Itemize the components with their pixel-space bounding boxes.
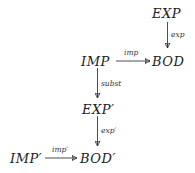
- node-exp: EXP: [152, 7, 181, 20]
- arrows-layer: [0, 0, 195, 173]
- node-bod-prime: BOD′: [80, 152, 116, 165]
- label-exp-prime: exp′: [101, 127, 116, 135]
- node-imp: IMP: [81, 55, 110, 68]
- label-imp: imp: [124, 49, 138, 57]
- node-exp-prime: EXP′: [82, 103, 114, 116]
- label-subst: subst: [101, 80, 121, 88]
- commutative-diagram: EXP IMP BOD EXP′ IMP′ BOD′ exp imp subst…: [0, 0, 195, 173]
- label-imp-prime: imp′: [52, 146, 68, 154]
- node-imp-prime: IMP′: [10, 152, 42, 165]
- node-bod: BOD: [152, 55, 184, 68]
- label-exp: exp: [171, 31, 184, 39]
